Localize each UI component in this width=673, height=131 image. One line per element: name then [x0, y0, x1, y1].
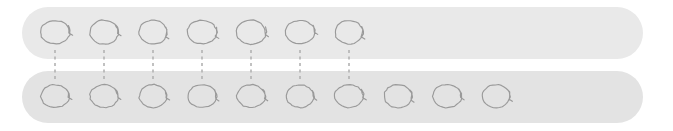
bottom-sequence-bar [22, 71, 643, 123]
top-sequence-bar [22, 7, 643, 59]
bottom-bar-track [22, 71, 643, 123]
diagram-canvas [0, 0, 673, 131]
top-bar-track [22, 7, 643, 59]
